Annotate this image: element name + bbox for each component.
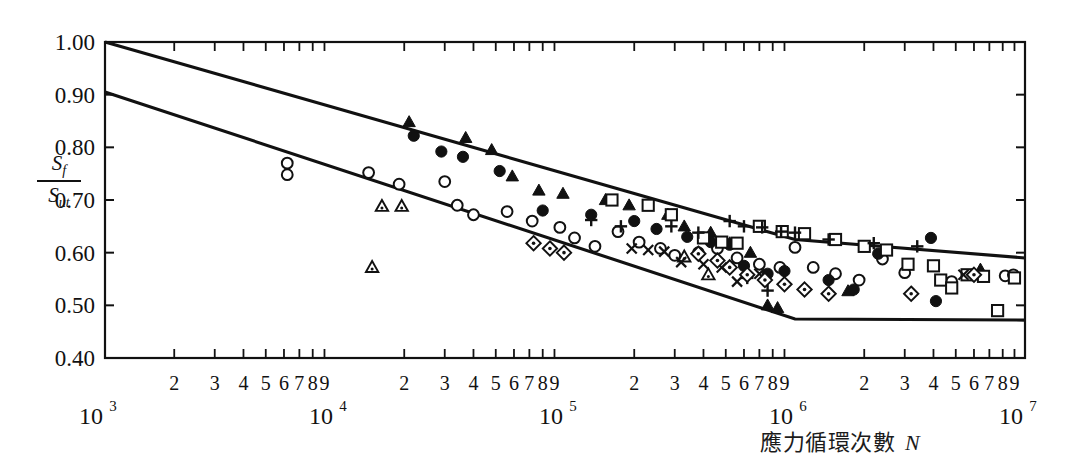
series-filled-triangle xyxy=(403,116,987,313)
x-axis-minor-label: 7 xyxy=(524,372,534,394)
x-axis-minor-label: 8 xyxy=(538,372,548,394)
x-axis-decade-label: 103 xyxy=(79,398,117,429)
x-axis-minor-label: 8 xyxy=(768,372,778,394)
marker-triangle-filled xyxy=(623,199,635,210)
fraction-bar xyxy=(37,180,81,182)
band-boundary-lines xyxy=(105,42,1025,320)
x-axis-minor-label: 9 xyxy=(319,372,329,394)
marker-square-open xyxy=(643,200,654,211)
marker-circle-filled xyxy=(457,151,468,162)
x-axis-minor-label: 4 xyxy=(468,372,478,394)
y-axis-label-numerator: Sf xyxy=(22,152,96,179)
y-axis-tick-label: 0.90 xyxy=(55,83,95,108)
plot-canvas: 1.000.900.800.700.600.500.40 23456789234… xyxy=(0,0,1083,471)
x-axis-decade-label: 104 xyxy=(309,398,347,429)
marker-diamond-dot xyxy=(532,241,536,245)
marker-triangle-filled xyxy=(771,302,783,313)
marker-circle-open xyxy=(363,167,374,178)
x-axis-minor-label: 4 xyxy=(238,372,248,394)
decade-exponent: 6 xyxy=(799,398,807,414)
x-axis-minor-label: 3 xyxy=(210,372,220,394)
x-axis-top-ticks xyxy=(174,42,1014,51)
marker-triangle-open-dot xyxy=(371,268,374,271)
x-axis-minor-label: 3 xyxy=(440,372,450,394)
marker-square-open xyxy=(992,305,1003,316)
marker-triangle-filled xyxy=(533,184,545,195)
x-axis-minor-label: 9 xyxy=(1009,372,1019,394)
marker-circle-filled xyxy=(930,296,941,307)
x-axis-minor-label: 2 xyxy=(629,372,639,394)
marker-diamond-dot xyxy=(763,278,767,282)
marker-triangle-filled xyxy=(678,220,690,231)
decade-mantissa: 10 xyxy=(539,403,563,429)
y-axis-tick-label: 0.40 xyxy=(55,346,95,371)
x-axis-minor-label: 7 xyxy=(294,372,304,394)
decade-exponent: 3 xyxy=(109,398,117,414)
x-axis-minor-label: 6 xyxy=(279,372,289,394)
y-axis-label: Sf Sut xyxy=(22,152,96,210)
x-axis-minor-label: 8 xyxy=(308,372,318,394)
y-axis-tick-label: 0.50 xyxy=(55,293,95,318)
x-axis-minor-label: 2 xyxy=(169,372,179,394)
decade-mantissa: 10 xyxy=(79,403,103,429)
marker-circle-filled xyxy=(494,165,505,176)
marker-triangle-open-dot xyxy=(400,206,403,209)
x-axis-title: 應力循環次數N xyxy=(760,424,920,456)
marker-circle-filled xyxy=(779,266,790,277)
decade-mantissa: 10 xyxy=(999,403,1023,429)
marker-diamond-dot xyxy=(972,273,976,277)
plot-frame xyxy=(105,42,1025,358)
marker-triangle-open-dot xyxy=(380,206,383,209)
x-axis-minor-label: 4 xyxy=(698,372,708,394)
x-axis-minor-label: 7 xyxy=(754,372,764,394)
y-axis-ticks xyxy=(105,95,1025,306)
marker-triangle-open-dot xyxy=(707,275,710,278)
marker-diamond-dot xyxy=(728,266,732,270)
x-axis-decade-label: 105 xyxy=(539,398,577,429)
marker-circle-open xyxy=(452,200,463,211)
marker-diamond-dot xyxy=(562,251,566,255)
marker-diamond-dot xyxy=(745,273,749,277)
marker-circle-open xyxy=(439,176,450,187)
marker-diamond-dot xyxy=(716,259,720,263)
marker-diamond-dot xyxy=(783,282,787,286)
marker-triangle-filled xyxy=(485,144,497,155)
marker-circle-open xyxy=(590,241,601,252)
marker-diamond-dot xyxy=(803,288,807,292)
figure-root: Sf Sut 應力循環次數N 1.000.900.800.700.600.500… xyxy=(0,0,1083,471)
marker-square-open xyxy=(716,237,727,248)
marker-triangle-filled xyxy=(459,131,471,142)
marker-square-open xyxy=(881,244,892,255)
x-axis-minor-label: 5 xyxy=(261,372,271,394)
marker-circle-open xyxy=(282,158,293,169)
axis-frame xyxy=(105,42,1025,358)
marker-circle-open xyxy=(554,222,565,233)
marker-triangle-filled xyxy=(744,246,756,257)
data-points-layer xyxy=(282,116,1020,317)
marker-circle-open xyxy=(569,233,580,244)
marker-triangle-filled xyxy=(557,187,569,198)
marker-circle-filled xyxy=(682,231,693,242)
marker-circle-filled xyxy=(629,215,640,226)
x-axis-minor-label: 6 xyxy=(739,372,749,394)
marker-circle-open xyxy=(754,259,765,270)
marker-square-open xyxy=(606,194,617,205)
x-axis-minor-label: 9 xyxy=(779,372,789,394)
marker-circle-filled xyxy=(537,205,548,216)
marker-circle-filled xyxy=(823,274,834,285)
x-axis-minor-label: 2 xyxy=(859,372,869,394)
marker-circle-open xyxy=(808,262,819,273)
decade-exponent: 5 xyxy=(569,398,577,414)
marker-square-open xyxy=(935,274,946,285)
marker-diamond-dot xyxy=(827,292,831,296)
y-axis-label-denominator: Sut xyxy=(22,183,96,210)
x-axis-minor-label: 3 xyxy=(670,372,680,394)
marker-circle-open xyxy=(468,209,479,220)
x-axis-title-variable: N xyxy=(895,430,920,455)
decade-exponent: 7 xyxy=(1029,398,1037,414)
x-axis-minor-label: 8 xyxy=(998,372,1008,394)
y-axis-tick-label: 1.00 xyxy=(55,30,95,55)
x-axis-minor-labels: 23456789234567892345678923456789 xyxy=(169,372,1019,394)
x-axis-minor-label: 9 xyxy=(549,372,559,394)
marker-triangle-filled xyxy=(761,299,773,310)
